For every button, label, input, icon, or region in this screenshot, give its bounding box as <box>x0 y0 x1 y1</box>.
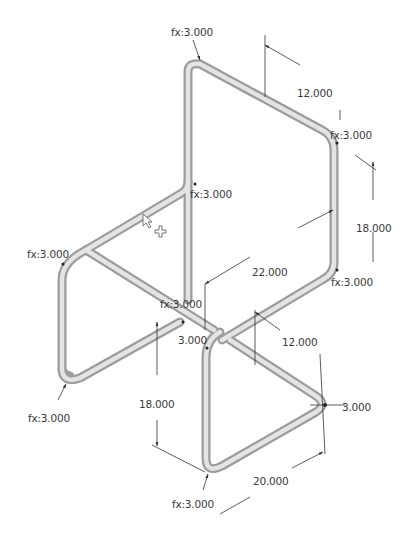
dimension-seat-depth[interactable]: 22.000 <box>252 266 288 278</box>
dimension-front-radius[interactable]: 3.000 <box>342 401 371 413</box>
fillet-label-top-left[interactable]: fx:3.000 <box>171 26 213 38</box>
sketch-canvas[interactable] <box>0 0 407 539</box>
dimension-seat-width[interactable]: 12.000 <box>282 336 318 348</box>
fillet-label-seat-right[interactable]: fx:3.000 <box>331 276 373 288</box>
dimension-leg-height[interactable]: 18.000 <box>139 398 175 410</box>
fillet-label-seat-left[interactable]: fx:3.000 <box>27 248 69 260</box>
dimension-base-depth[interactable]: 20.000 <box>253 475 289 487</box>
tube-frame[interactable] <box>62 64 334 469</box>
cursor-icon <box>143 214 166 237</box>
fillet-label-center[interactable]: fx:3.000 <box>160 298 202 310</box>
dimension-back-width[interactable]: 12.000 <box>297 87 333 99</box>
fillet-label-top-right[interactable]: fx:3.000 <box>330 129 372 141</box>
fillet-label-seat-back[interactable]: fx:3.000 <box>190 188 232 200</box>
fillet-label-bottom-left[interactable]: fx:3.000 <box>28 412 70 424</box>
fillet-label-bottom-front[interactable]: fx:3.000 <box>172 498 214 510</box>
dimension-back-height[interactable]: 18.000 <box>356 222 392 234</box>
dimension-center-radius[interactable]: 3.000 <box>178 334 207 346</box>
